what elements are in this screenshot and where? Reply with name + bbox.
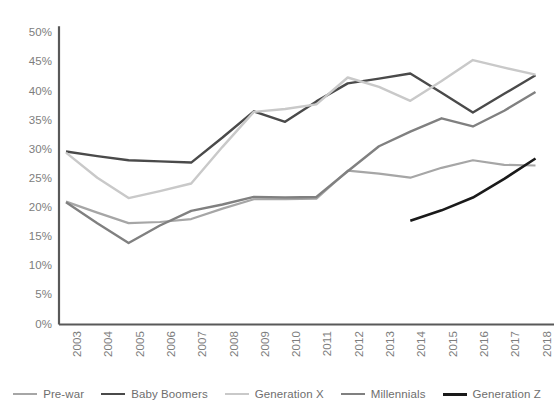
legend-line-swatch bbox=[341, 393, 365, 395]
legend-label: Pre-war bbox=[43, 388, 84, 400]
legend-label: Generation Z bbox=[473, 388, 541, 400]
x-axis-tick-label: 2018 bbox=[541, 331, 553, 357]
x-axis-tick-label: 2017 bbox=[509, 331, 521, 357]
y-axis-tick-label: 20% bbox=[10, 202, 52, 213]
y-axis-tick-label: 15% bbox=[10, 231, 52, 242]
x-axis-tick-label: 2011 bbox=[321, 331, 333, 356]
x-axis-tick-label: 2009 bbox=[259, 331, 271, 357]
series-line-generation-x bbox=[66, 60, 536, 198]
axes bbox=[59, 26, 554, 324]
legend-line-swatch bbox=[443, 393, 467, 396]
x-axis-tick-label: 2014 bbox=[415, 331, 427, 357]
x-axis-tick-label: 2015 bbox=[447, 331, 459, 357]
legend-label: Baby Boomers bbox=[131, 388, 208, 400]
x-axis-tick-label: 2010 bbox=[290, 331, 302, 357]
plot-svg bbox=[0, 0, 554, 378]
legend-label: Millennials bbox=[371, 388, 426, 400]
x-axis-tick-label: 2012 bbox=[353, 331, 365, 357]
legend-item[interactable]: Generation X bbox=[225, 388, 324, 400]
series-line-baby-boomers bbox=[66, 73, 536, 162]
legend-line-swatch bbox=[225, 393, 249, 395]
x-axis-tick-label: 2008 bbox=[228, 331, 240, 357]
plot-area: 0%5%10%15%20%25%30%35%40%45%50% 20032004… bbox=[0, 0, 554, 378]
x-axis-tick-label: 2016 bbox=[478, 331, 490, 357]
legend-line-swatch bbox=[101, 393, 125, 395]
y-axis-tick-label: 30% bbox=[10, 144, 52, 155]
series-line-pre-war bbox=[66, 160, 536, 223]
y-axis-tick-label: 5% bbox=[10, 289, 52, 300]
y-axis-tick-label: 25% bbox=[10, 173, 52, 184]
series-line-millennials bbox=[66, 92, 536, 243]
y-axis-tick-label: 50% bbox=[10, 27, 52, 38]
series-lines bbox=[66, 60, 536, 243]
x-axis-tick-label: 2003 bbox=[71, 331, 83, 357]
x-axis-tick-label: 2004 bbox=[102, 331, 114, 357]
x-axis-tick-label: 2005 bbox=[134, 331, 146, 357]
legend-item[interactable]: Millennials bbox=[341, 388, 426, 400]
legend-item[interactable]: Generation Z bbox=[443, 388, 541, 400]
series-line-generation-z bbox=[410, 158, 535, 220]
line-chart: 0%5%10%15%20%25%30%35%40%45%50% 20032004… bbox=[0, 0, 554, 412]
legend-item[interactable]: Baby Boomers bbox=[101, 388, 208, 400]
x-axis-tick-label: 2007 bbox=[196, 331, 208, 357]
y-axis-tick-label: 0% bbox=[10, 319, 52, 330]
y-axis-tick-label: 45% bbox=[10, 56, 52, 67]
y-axis-tick-label: 10% bbox=[10, 260, 52, 271]
x-axis-tick-label: 2013 bbox=[384, 331, 396, 357]
y-axis-tick-label: 40% bbox=[10, 86, 52, 97]
chart-legend: Pre-warBaby BoomersGeneration XMillennia… bbox=[0, 381, 554, 407]
legend-label: Generation X bbox=[255, 388, 324, 400]
legend-line-swatch bbox=[13, 393, 37, 395]
legend-item[interactable]: Pre-war bbox=[13, 388, 84, 400]
y-axis-tick-label: 35% bbox=[10, 115, 52, 126]
x-axis-tick-label: 2006 bbox=[165, 331, 177, 357]
